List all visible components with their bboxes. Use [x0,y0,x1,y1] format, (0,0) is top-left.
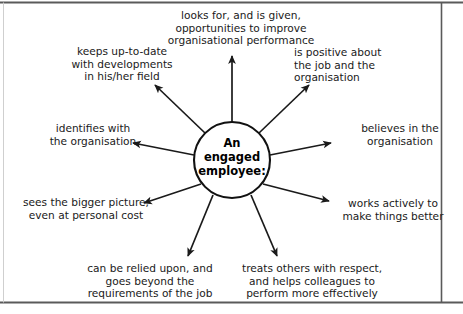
node-line: opportunities to improve [148,22,334,35]
node-label-opportunities: looks for, and is given, opportunities t… [148,9,334,47]
spoke-arrow-respect [251,195,277,256]
node-line: in his/her field [56,70,188,83]
node-line: requirements of the job [74,287,226,300]
node-line: sees the bigger picture, [12,196,160,209]
node-line: the organisation [30,135,156,148]
spoke-arrow-relied-upon [188,195,213,256]
node-line: identifies with [30,122,156,135]
spoke-arrow-believes [270,143,331,155]
node-line: organisation [294,71,424,84]
node-line: make things better [329,210,457,223]
node-label-respect: treats others with respect, and helps co… [231,262,393,300]
node-line: the job and the [294,59,424,72]
node-label-identifies: identifies with the organisation [30,122,156,147]
node-line: even at personal cost [12,209,160,222]
hub-label-line-2: engaged [204,150,260,164]
node-line: looks for, and is given, [148,9,334,22]
node-line: organisation [337,135,463,148]
node-line: goes beyond the [74,275,226,288]
hub-label-line-1: An [223,136,240,150]
node-line: keeps up-to-date [56,45,188,58]
node-line: works actively to [329,197,457,210]
hub-label-line-3: employee: [198,164,266,178]
spoke-arrow-positive [259,85,309,133]
spoke-arrow-up-to-date [155,85,205,133]
node-line: is positive about [294,46,424,59]
node-line: and helps colleagues to [231,275,393,288]
node-label-relied-upon: can be relied upon, and goes beyond the … [74,262,226,300]
node-label-bigger-picture: sees the bigger picture, even at persona… [12,196,160,221]
node-line: with developments [56,58,188,71]
node-label-works-actively: works actively to make things better [329,197,457,222]
node-label-up-to-date: keeps up-to-date with developments in hi… [56,45,188,83]
node-line: perform more effectively [231,287,393,300]
spoke-arrow-works-actively [263,184,329,201]
engaged-employee-diagram: An engaged employee: looks for, and is g… [0,0,463,314]
node-label-believes: believes in the organisation [337,122,463,147]
node-line: can be relied upon, and [74,262,226,275]
node-line: treats others with respect, [231,262,393,275]
node-line: believes in the [337,122,463,135]
node-label-positive: is positive about the job and the organi… [294,46,424,84]
